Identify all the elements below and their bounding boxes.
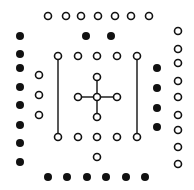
top-inner-filled-pair (82, 32, 115, 40)
open-circle (175, 144, 182, 151)
filled-dot (122, 173, 130, 181)
filled-dot (141, 173, 149, 181)
open-circle (94, 134, 101, 141)
open-circle (36, 112, 43, 119)
open-circle (55, 53, 62, 60)
filled-dot (153, 104, 161, 112)
open-circle (94, 74, 101, 81)
diagram-svg (0, 0, 194, 190)
filled-dot (153, 123, 161, 131)
open-circle (78, 13, 85, 20)
right-open-column (175, 28, 182, 168)
open-circle (36, 72, 43, 79)
filled-dot (16, 64, 24, 72)
open-circle (63, 13, 70, 20)
left-open-column (36, 72, 43, 119)
filled-dot (63, 173, 71, 181)
open-circle (94, 94, 101, 101)
filled-dot (83, 173, 91, 181)
dot-groups (16, 13, 182, 182)
open-circle (94, 154, 101, 161)
inner-bottom-open-row (55, 134, 141, 141)
filled-dot (16, 83, 24, 91)
filled-dot (82, 32, 90, 40)
bottom-filled-row (44, 173, 149, 181)
open-circle (114, 134, 121, 141)
filled-dot (16, 32, 24, 40)
open-circle (75, 53, 82, 60)
filled-dot (107, 32, 115, 40)
open-circle (175, 94, 182, 101)
filled-dot (16, 50, 24, 58)
open-circle (75, 94, 82, 101)
open-circle (94, 114, 101, 121)
open-circle (75, 134, 82, 141)
filled-dot (153, 84, 161, 92)
cross-nodes (75, 74, 121, 121)
right-filled-column (153, 64, 161, 131)
open-circle (175, 78, 182, 85)
open-circle (134, 134, 141, 141)
open-circle (114, 94, 121, 101)
filled-dot (16, 101, 24, 109)
open-circle (175, 46, 182, 53)
filled-dot (102, 173, 110, 181)
open-circle (175, 28, 182, 35)
open-circle (94, 53, 101, 60)
filled-dot (153, 64, 161, 72)
open-circle (95, 13, 102, 20)
open-circle (55, 134, 62, 141)
open-circle (114, 53, 121, 60)
filled-dot (16, 139, 24, 147)
filled-dot (16, 121, 24, 129)
open-circle (36, 92, 43, 99)
left-filled-column (16, 32, 24, 166)
top-open-row (45, 13, 153, 20)
open-circle (112, 13, 119, 20)
open-circle (134, 53, 141, 60)
open-circle (175, 112, 182, 119)
filled-dot (16, 158, 24, 166)
open-circle (45, 13, 52, 20)
open-circle (175, 60, 182, 67)
open-circle (146, 13, 153, 20)
inner-top-open-row (55, 53, 141, 60)
filled-dot (44, 173, 52, 181)
bottom-center-open (94, 154, 101, 161)
open-circle (175, 127, 182, 134)
dot-pattern-diagram (0, 0, 194, 190)
open-circle (175, 161, 182, 168)
open-circle (128, 13, 135, 20)
